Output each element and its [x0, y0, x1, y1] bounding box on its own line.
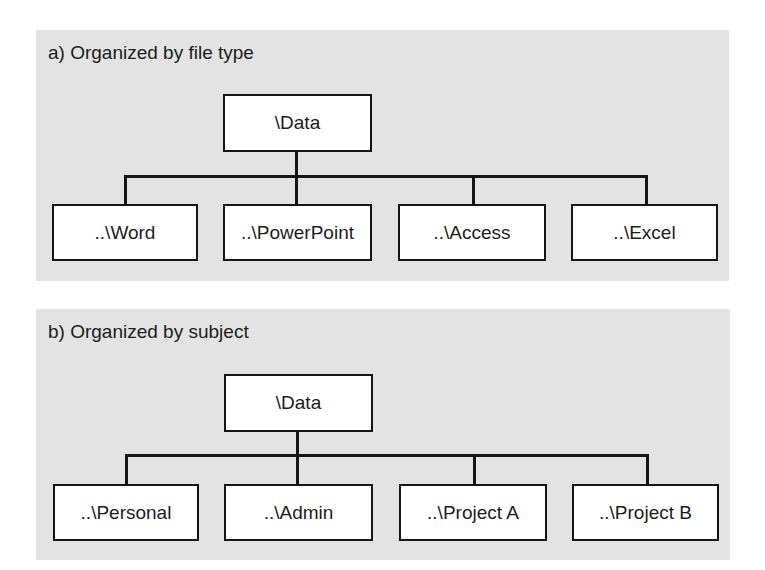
child-connector: [124, 175, 127, 205]
folder-label: ..\Word: [95, 222, 156, 244]
folder-label: ..\Project B: [599, 502, 692, 524]
folder-label: ..\Personal: [81, 502, 172, 524]
folder-label: ..\Project A: [427, 502, 519, 524]
panel-title: b) Organized by subject: [48, 321, 249, 343]
folder-node-project-a[interactable]: ..\Project A: [399, 484, 547, 541]
child-connector: [472, 175, 475, 205]
folder-node-word[interactable]: ..\Word: [52, 204, 198, 261]
folder-label: \Data: [275, 112, 320, 134]
folder-label: ..\PowerPoint: [241, 222, 354, 244]
panel-title: a) Organized by file type: [48, 42, 254, 64]
child-connector: [473, 454, 476, 485]
folder-node-personal[interactable]: ..\Personal: [53, 484, 199, 541]
root-connector: [296, 430, 299, 456]
folder-node-powerpoint[interactable]: ..\PowerPoint: [223, 204, 372, 261]
folder-label: ..\Access: [433, 222, 510, 244]
folder-label: ..\Admin: [264, 502, 334, 524]
folder-label: ..\Excel: [613, 222, 675, 244]
root-connector: [295, 151, 298, 177]
branch-connector: [124, 175, 648, 178]
folder-node-admin[interactable]: ..\Admin: [224, 484, 373, 541]
child-connector: [645, 175, 648, 205]
folder-node-root-data[interactable]: \Data: [224, 374, 373, 432]
folder-node-project-b[interactable]: ..\Project B: [572, 484, 719, 541]
child-connector: [646, 454, 649, 485]
branch-connector: [125, 454, 649, 457]
folder-node-excel[interactable]: ..\Excel: [571, 204, 718, 261]
folder-node-access[interactable]: ..\Access: [398, 204, 546, 261]
folder-label: \Data: [276, 392, 321, 414]
folder-node-root-data[interactable]: \Data: [223, 94, 372, 152]
child-connector: [125, 454, 128, 485]
diagram-panel-subject: b) Organized by subject \Data ..\Persona…: [36, 309, 730, 560]
child-connector: [295, 175, 298, 205]
child-connector: [296, 454, 299, 485]
diagram-panel-file-type: a) Organized by file type \Data ..\Word …: [36, 30, 729, 281]
